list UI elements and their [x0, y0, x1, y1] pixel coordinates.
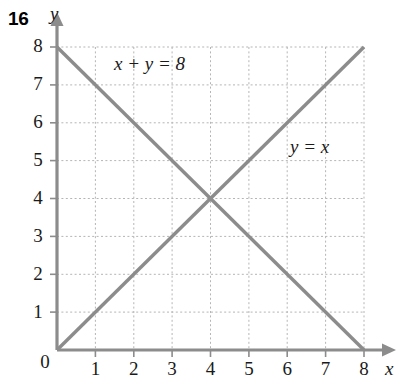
x-tick-label-3: 3	[162, 358, 182, 380]
graph-figure: 16	[0, 0, 406, 391]
annotation-x-plus-y-equals-8: x + y = 8	[114, 53, 185, 75]
x-tick-label-2: 2	[124, 358, 144, 380]
y-tick-label-6: 6	[28, 111, 48, 133]
y-tick-label-2: 2	[28, 263, 48, 285]
x-tick-label-8: 8	[354, 358, 374, 380]
y-tick-label-5: 5	[28, 149, 48, 171]
x-tick-label-4: 4	[201, 358, 221, 380]
x-axis-arrowhead	[382, 344, 396, 357]
x-tick-label-1: 1	[85, 358, 105, 380]
annotation-y-equals-x: y = x	[290, 136, 329, 158]
y-tick-label-8: 8	[28, 35, 48, 57]
x-tick-label-7: 7	[316, 358, 336, 380]
y-tick-label-7: 7	[28, 73, 48, 95]
y-tick-label-4: 4	[28, 187, 48, 209]
origin-tick-label: 0	[35, 351, 55, 373]
y-axis-label: y	[50, 3, 58, 25]
y-tick-label-1: 1	[28, 301, 48, 323]
x-tick-label-5: 5	[239, 358, 259, 380]
x-tick-label-6: 6	[277, 358, 297, 380]
x-axis-label: x	[385, 358, 393, 380]
coordinate-plane	[0, 0, 406, 391]
y-tick-label-3: 3	[28, 225, 48, 247]
